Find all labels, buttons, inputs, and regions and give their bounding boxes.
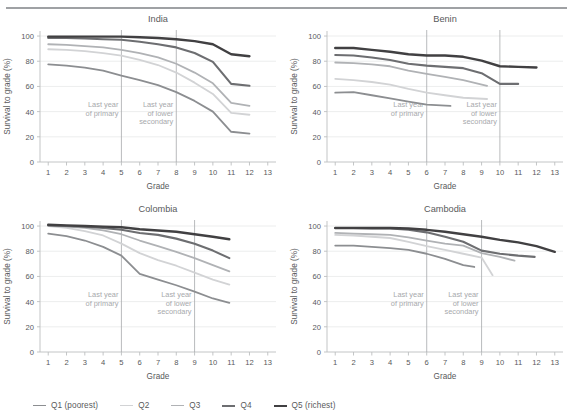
series-line xyxy=(335,228,555,252)
legend-label: Q1 (poorest) xyxy=(51,401,98,410)
x-tick-label: 10 xyxy=(209,168,217,177)
x-tick-label: 3 xyxy=(370,168,374,177)
x-tick-label: 8 xyxy=(461,358,465,367)
x-tick-label: 8 xyxy=(461,168,465,177)
panel-title: Colombia xyxy=(139,204,179,214)
x-tick-label: 11 xyxy=(227,168,235,177)
legend-item[interactable]: Q4 xyxy=(222,401,251,410)
x-tick-label: 2 xyxy=(64,358,68,367)
y-tick-label: 60 xyxy=(26,272,34,281)
x-axis-label: Grade xyxy=(434,372,457,381)
x-tick-label: 12 xyxy=(532,358,540,367)
y-tick-label: 20 xyxy=(313,133,321,142)
chart-panel-india: India02040608010012345678910111213GradeS… xyxy=(0,11,286,200)
x-tick-label: 5 xyxy=(406,358,410,367)
legend-item[interactable]: Q1 (poorest) xyxy=(33,401,98,410)
legend-label: Q2 xyxy=(138,401,149,410)
x-tick-label: 6 xyxy=(425,168,429,177)
panel-title: India xyxy=(148,14,169,24)
figure-root: India02040608010012345678910111213GradeS… xyxy=(0,0,573,419)
x-tick-label: 1 xyxy=(333,358,337,367)
x-tick-label: 5 xyxy=(406,168,410,177)
legend-items: Q1 (poorest)Q2Q3Q4Q5 (richest) xyxy=(0,392,573,419)
x-axis-label: Grade xyxy=(147,182,170,191)
x-tick-label: 1 xyxy=(46,358,50,367)
x-tick-label: 7 xyxy=(443,168,447,177)
x-tick-label: 4 xyxy=(101,168,105,177)
chart-annotation: of primary xyxy=(391,299,424,308)
chart-svg: Colombia02040608010012345678910111213Gra… xyxy=(0,201,286,390)
y-tick-label: 80 xyxy=(26,247,34,256)
chart-svg: Cambodia02040608010012345678910111213Gra… xyxy=(287,201,573,390)
panel-title: Cambodia xyxy=(424,204,467,214)
x-tick-label: 13 xyxy=(551,168,559,177)
y-axis-label: Survival to grade (%) xyxy=(290,58,299,135)
x-tick-label: 8 xyxy=(174,168,178,177)
x-tick-label: 9 xyxy=(192,358,196,367)
x-tick-label: 12 xyxy=(532,168,540,177)
x-tick-label: 2 xyxy=(351,358,355,367)
y-axis-label: Survival to grade (%) xyxy=(290,248,299,325)
chart-annotation: of primary xyxy=(391,109,424,118)
legend-label: Q3 xyxy=(189,401,200,410)
x-tick-label: 3 xyxy=(370,358,374,367)
x-axis-label: Grade xyxy=(434,182,457,191)
y-tick-label: 100 xyxy=(308,32,321,41)
y-tick-label: 40 xyxy=(313,298,321,307)
chart-legend: Q1 (poorest)Q2Q3Q4Q5 (richest) xyxy=(0,392,573,419)
y-tick-label: 0 xyxy=(317,348,321,357)
x-axis-label: Grade xyxy=(147,372,170,381)
x-tick-label: 4 xyxy=(388,358,392,367)
panel-title: Benin xyxy=(433,14,457,24)
x-tick-label: 2 xyxy=(64,168,68,177)
chart-svg: India02040608010012345678910111213GradeS… xyxy=(0,11,286,200)
x-tick-label: 5 xyxy=(119,358,123,367)
y-tick-label: 0 xyxy=(30,158,34,167)
x-tick-label: 2 xyxy=(351,168,355,177)
x-tick-label: 5 xyxy=(119,168,123,177)
x-tick-label: 13 xyxy=(264,168,272,177)
y-tick-label: 60 xyxy=(313,272,321,281)
y-axis-label: Survival to grade (%) xyxy=(3,248,12,325)
y-tick-label: 20 xyxy=(26,323,34,332)
chart-annotation: secondary xyxy=(157,307,191,316)
chart-svg: Benin02040608010012345678910111213GradeS… xyxy=(287,11,573,200)
chart-annotation: secondary xyxy=(463,117,497,126)
y-tick-label: 20 xyxy=(313,323,321,332)
legend-item[interactable]: Q2 xyxy=(120,401,149,410)
series-line xyxy=(335,79,487,99)
x-tick-label: 1 xyxy=(46,168,50,177)
x-tick-label: 6 xyxy=(138,358,142,367)
x-tick-label: 11 xyxy=(514,358,522,367)
panel-grid: India02040608010012345678910111213GradeS… xyxy=(0,11,573,389)
chart-panel-colombia: Colombia02040608010012345678910111213Gra… xyxy=(0,201,286,390)
series-line xyxy=(48,44,249,106)
series-line xyxy=(335,235,492,275)
y-tick-label: 80 xyxy=(313,57,321,66)
y-tick-label: 40 xyxy=(26,108,34,117)
legend-label: Q5 (richest) xyxy=(292,401,336,410)
y-tick-label: 100 xyxy=(21,32,34,41)
series-line xyxy=(335,246,474,267)
y-tick-label: 20 xyxy=(26,133,34,142)
legend-line-icon xyxy=(222,405,235,407)
chart-annotation: secondary xyxy=(139,117,173,126)
chart-annotation: of primary xyxy=(86,299,119,308)
x-tick-label: 7 xyxy=(156,168,160,177)
legend-line-icon xyxy=(274,405,287,407)
legend-item[interactable]: Q3 xyxy=(171,401,200,410)
x-tick-label: 9 xyxy=(479,358,483,367)
y-tick-label: 60 xyxy=(313,82,321,91)
chart-annotation: secondary xyxy=(444,307,478,316)
x-tick-label: 9 xyxy=(479,168,483,177)
x-tick-label: 10 xyxy=(496,358,504,367)
x-tick-label: 1 xyxy=(333,168,337,177)
y-tick-label: 0 xyxy=(317,158,321,167)
y-tick-label: 80 xyxy=(313,247,321,256)
legend-item[interactable]: Q5 (richest) xyxy=(274,401,336,410)
x-tick-label: 10 xyxy=(209,358,217,367)
x-tick-label: 12 xyxy=(245,358,253,367)
legend-line-icon xyxy=(171,405,184,406)
y-tick-label: 40 xyxy=(26,298,34,307)
y-axis-label: Survival to grade (%) xyxy=(3,58,12,135)
